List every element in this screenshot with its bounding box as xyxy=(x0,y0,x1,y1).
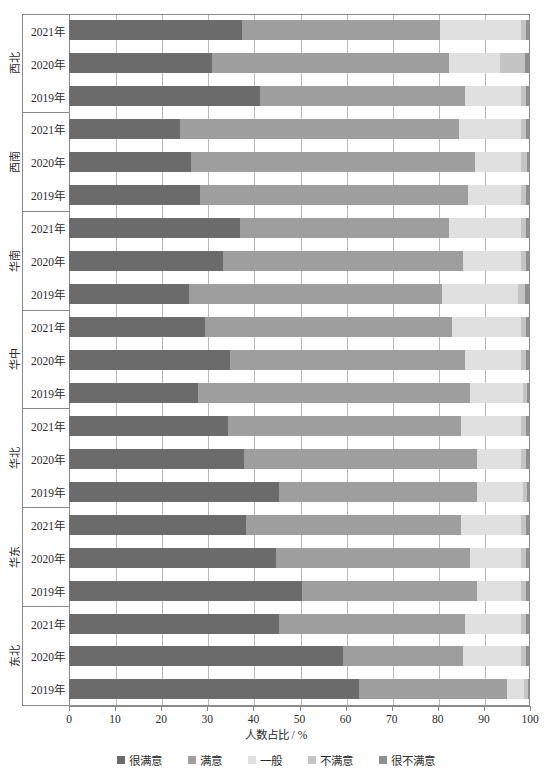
bar-segment-很不满意[interactable] xyxy=(526,581,530,601)
stacked-bar[interactable] xyxy=(69,86,530,106)
bar-segment-很不满意[interactable] xyxy=(526,416,530,436)
bar-segment-一般[interactable] xyxy=(468,185,521,205)
bar-segment-一般[interactable] xyxy=(449,218,520,238)
bar-segment-一般[interactable] xyxy=(507,679,525,699)
legend-item-很不满意[interactable]: 很不满意 xyxy=(379,752,435,768)
bar-segment-很满意[interactable] xyxy=(69,152,191,172)
bar-segment-很不满意[interactable] xyxy=(526,515,530,535)
bar-segment-很满意[interactable] xyxy=(69,449,244,469)
bar-segment-一般[interactable] xyxy=(463,251,521,271)
bar-segment-很不满意[interactable] xyxy=(526,614,530,634)
bar-segment-一般[interactable] xyxy=(465,350,520,370)
bar-segment-满意[interactable] xyxy=(180,119,459,139)
bar-segment-满意[interactable] xyxy=(244,449,477,469)
bar-segment-很不满意[interactable] xyxy=(525,284,530,304)
stacked-bar[interactable] xyxy=(69,350,530,370)
bar-segment-很满意[interactable] xyxy=(69,614,279,634)
bar-segment-一般[interactable] xyxy=(461,515,521,535)
stacked-bar[interactable] xyxy=(69,515,530,535)
bar-segment-很不满意[interactable] xyxy=(527,383,530,403)
bar-segment-很满意[interactable] xyxy=(69,119,180,139)
bar-segment-很不满意[interactable] xyxy=(526,548,530,568)
bar-segment-一般[interactable] xyxy=(465,614,520,634)
bar-segment-很满意[interactable] xyxy=(69,86,260,106)
stacked-bar[interactable] xyxy=(69,185,530,205)
bar-segment-很满意[interactable] xyxy=(69,185,200,205)
bar-segment-满意[interactable] xyxy=(200,185,467,205)
bar-segment-一般[interactable] xyxy=(449,53,500,73)
bar-segment-一般[interactable] xyxy=(459,119,521,139)
stacked-bar[interactable] xyxy=(69,646,530,666)
bar-segment-满意[interactable] xyxy=(240,218,450,238)
legend-item-一般[interactable]: 一般 xyxy=(248,752,282,768)
bar-segment-一般[interactable] xyxy=(465,86,520,106)
stacked-bar[interactable] xyxy=(69,383,530,403)
bar-segment-满意[interactable] xyxy=(343,646,463,666)
stacked-bar[interactable] xyxy=(69,482,530,502)
bar-segment-一般[interactable] xyxy=(477,581,521,601)
bar-segment-一般[interactable] xyxy=(463,646,521,666)
bar-segment-很不满意[interactable] xyxy=(528,679,530,699)
bar-segment-一般[interactable] xyxy=(461,416,521,436)
bar-segment-一般[interactable] xyxy=(475,152,521,172)
bar-segment-很满意[interactable] xyxy=(69,383,198,403)
stacked-bar[interactable] xyxy=(69,284,530,304)
bar-segment-很满意[interactable] xyxy=(69,284,189,304)
bar-segment-很满意[interactable] xyxy=(69,679,359,699)
stacked-bar[interactable] xyxy=(69,53,530,73)
bar-segment-很满意[interactable] xyxy=(69,20,242,40)
bar-segment-满意[interactable] xyxy=(260,86,465,106)
bar-segment-很不满意[interactable] xyxy=(526,251,530,271)
bar-segment-很不满意[interactable] xyxy=(526,119,530,139)
bar-segment-很不满意[interactable] xyxy=(526,86,530,106)
bar-segment-满意[interactable] xyxy=(230,350,465,370)
bar-segment-满意[interactable] xyxy=(223,251,463,271)
bar-segment-很满意[interactable] xyxy=(69,548,276,568)
bar-segment-一般[interactable] xyxy=(442,284,518,304)
bar-segment-很满意[interactable] xyxy=(69,646,343,666)
legend-item-不满意[interactable]: 不满意 xyxy=(308,752,353,768)
bar-segment-一般[interactable] xyxy=(452,317,521,337)
bar-segment-很不满意[interactable] xyxy=(526,350,530,370)
bar-segment-很满意[interactable] xyxy=(69,53,212,73)
bar-segment-很不满意[interactable] xyxy=(527,482,530,502)
bar-segment-满意[interactable] xyxy=(279,482,477,502)
bar-segment-满意[interactable] xyxy=(228,416,461,436)
bar-segment-满意[interactable] xyxy=(359,679,507,699)
bar-segment-很不满意[interactable] xyxy=(526,449,530,469)
bar-segment-很满意[interactable] xyxy=(69,251,223,271)
stacked-bar[interactable] xyxy=(69,449,530,469)
bar-segment-满意[interactable] xyxy=(276,548,470,568)
stacked-bar[interactable] xyxy=(69,416,530,436)
bar-segment-很满意[interactable] xyxy=(69,581,302,601)
stacked-bar[interactable] xyxy=(69,679,530,699)
bar-segment-很不满意[interactable] xyxy=(526,218,530,238)
bar-segment-一般[interactable] xyxy=(470,383,523,403)
legend-item-很满意[interactable]: 很满意 xyxy=(117,752,162,768)
bar-segment-很满意[interactable] xyxy=(69,350,230,370)
bar-segment-满意[interactable] xyxy=(198,383,470,403)
bar-segment-很不满意[interactable] xyxy=(526,185,530,205)
legend-item-满意[interactable]: 满意 xyxy=(188,752,222,768)
bar-segment-满意[interactable] xyxy=(189,284,443,304)
bar-segment-很满意[interactable] xyxy=(69,515,246,535)
stacked-bar[interactable] xyxy=(69,20,530,40)
bar-segment-满意[interactable] xyxy=(246,515,460,535)
bar-segment-一般[interactable] xyxy=(477,482,523,502)
bar-segment-很不满意[interactable] xyxy=(525,53,530,73)
stacked-bar[interactable] xyxy=(69,581,530,601)
stacked-bar[interactable] xyxy=(69,251,530,271)
bar-segment-不满意[interactable] xyxy=(500,53,525,73)
bar-segment-满意[interactable] xyxy=(279,614,466,634)
bar-segment-一般[interactable] xyxy=(470,548,521,568)
bar-segment-不满意[interactable] xyxy=(518,284,525,304)
bar-segment-很不满意[interactable] xyxy=(526,646,530,666)
bar-segment-很不满意[interactable] xyxy=(526,20,530,40)
bar-segment-满意[interactable] xyxy=(212,53,449,73)
bar-segment-很满意[interactable] xyxy=(69,416,228,436)
stacked-bar[interactable] xyxy=(69,218,530,238)
bar-segment-一般[interactable] xyxy=(440,20,521,40)
bar-segment-很满意[interactable] xyxy=(69,317,205,337)
bar-segment-满意[interactable] xyxy=(205,317,452,337)
bar-segment-很不满意[interactable] xyxy=(526,317,530,337)
